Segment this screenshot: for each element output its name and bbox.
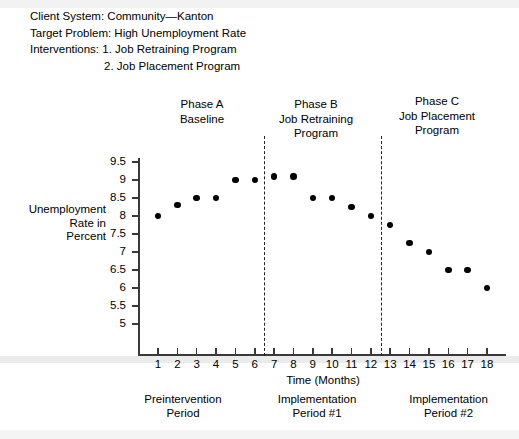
y-tick-label-5.5: 5.5 — [86, 299, 126, 311]
x-tick-5 — [235, 348, 237, 356]
data-point-month-13 — [387, 222, 394, 229]
data-point-month-14 — [406, 240, 413, 247]
x-tick-label-18: 18 — [475, 358, 499, 370]
y-axis-title-line-2: Rate in — [14, 217, 106, 231]
x-tick-6 — [254, 348, 256, 356]
data-point-month-3 — [193, 195, 200, 202]
y-tick-label-5: 5 — [86, 317, 126, 329]
data-point-month-15 — [426, 249, 433, 256]
data-point-month-11 — [348, 204, 355, 211]
x-tick-9 — [312, 348, 314, 356]
data-point-month-17 — [464, 267, 471, 274]
y-tick-label-9.5: 9.5 — [86, 155, 126, 167]
y-axis-title-line-1: Unemployment — [14, 203, 106, 217]
x-tick-13 — [389, 348, 391, 356]
data-point-month-16 — [445, 267, 452, 274]
data-point-month-9 — [310, 195, 317, 202]
bracket-2-bottom: Period #1 — [292, 407, 341, 419]
y-tick-label-6: 6 — [86, 281, 126, 293]
y-tick-label-7: 7 — [86, 245, 126, 257]
data-point-month-18 — [484, 285, 491, 292]
y-tick-5.5 — [132, 305, 140, 307]
y-tick-label-9: 9 — [86, 173, 126, 185]
x-tick-16 — [448, 348, 450, 356]
x-tick-17 — [467, 348, 469, 356]
x-tick-3 — [196, 348, 198, 356]
x-tick-10 — [331, 348, 333, 356]
phase-divider-2 — [381, 136, 382, 356]
y-axis-title-line-3: Percent — [14, 230, 106, 244]
x-tick-8 — [293, 348, 295, 356]
y-tick-6.5 — [132, 269, 140, 271]
data-point-month-12 — [368, 213, 375, 220]
data-point-month-10 — [329, 195, 336, 202]
bracket-caption-implementation-2: Implementation Period #2 — [386, 393, 511, 420]
x-tick-11 — [351, 348, 353, 356]
y-axis-line — [138, 158, 140, 355]
x-axis-title: Time (Months) — [248, 374, 398, 386]
x-tick-15 — [428, 348, 430, 356]
bracket-caption-implementation-1: Implementation Period #1 — [252, 393, 382, 420]
x-tick-1 — [157, 348, 159, 356]
x-tick-14 — [409, 348, 411, 356]
y-tick-9.5 — [132, 161, 140, 163]
y-tick-8 — [132, 215, 140, 217]
phase-divider-1 — [264, 136, 265, 356]
y-axis-title: Unemployment Rate in Percent — [14, 203, 106, 244]
y-tick-9 — [132, 179, 140, 181]
x-axis-line — [138, 354, 506, 356]
bracket-1-top: Preintervention — [118, 393, 248, 407]
bracket-2-top: Implementation — [252, 393, 382, 407]
data-point-month-1 — [155, 213, 162, 220]
x-tick-4 — [215, 348, 217, 356]
y-tick-label-8.5: 8.5 — [86, 191, 126, 203]
x-tick-2 — [177, 348, 179, 356]
bracket-3-top: Implementation — [386, 393, 511, 407]
y-tick-5 — [132, 323, 140, 325]
bracket-1-bottom: Period — [166, 407, 199, 419]
data-point-month-4 — [213, 195, 220, 202]
x-tick-7 — [273, 348, 275, 356]
data-point-month-6 — [252, 177, 259, 184]
y-tick-8.5 — [132, 197, 140, 199]
data-point-month-5 — [232, 177, 239, 184]
y-tick-7.5 — [132, 233, 140, 235]
data-point-month-2 — [174, 202, 181, 209]
bracket-caption-preintervention: Preintervention Period — [118, 393, 248, 420]
x-tick-18 — [486, 348, 488, 356]
data-point-month-8 — [290, 173, 297, 180]
y-tick-6 — [132, 287, 140, 289]
bracket-3-bottom: Period #2 — [424, 407, 473, 419]
data-point-month-7 — [271, 173, 278, 180]
y-tick-7 — [132, 251, 140, 253]
y-tick-label-6.5: 6.5 — [86, 263, 126, 275]
x-tick-12 — [370, 348, 372, 356]
